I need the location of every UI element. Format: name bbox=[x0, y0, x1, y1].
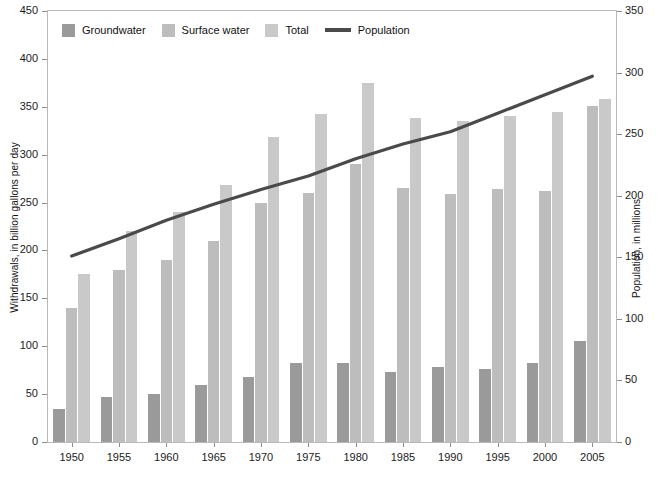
x-axis-tick-mark bbox=[545, 443, 546, 447]
y-axis-right-tick-mark bbox=[617, 134, 622, 135]
y-axis-left-tick-label: 450 bbox=[8, 4, 38, 16]
legend-item-population[interactable]: Population bbox=[325, 24, 410, 36]
y-axis-right-tick-mark bbox=[617, 442, 622, 443]
x-axis-tick-label: 1960 bbox=[144, 451, 188, 463]
x-axis-tick-label: 1980 bbox=[334, 451, 378, 463]
y-axis-right-tick-label: 350 bbox=[625, 4, 655, 16]
y-axis-right-tick-mark bbox=[617, 11, 622, 12]
legend-label: Population bbox=[358, 24, 410, 36]
legend-color-swatch bbox=[162, 24, 175, 37]
legend-item-surface-water[interactable]: Surface water bbox=[162, 24, 250, 37]
y-axis-left-tick-label: 100 bbox=[8, 339, 38, 351]
x-axis-tick-mark bbox=[450, 443, 451, 447]
x-axis-tick-label: 1965 bbox=[192, 451, 236, 463]
x-axis-tick-label: 1995 bbox=[476, 451, 520, 463]
y-axis-left-tick-label: 250 bbox=[8, 196, 38, 208]
x-axis-tick-label: 1970 bbox=[239, 451, 283, 463]
y-axis-right-tick-mark bbox=[617, 196, 622, 197]
x-axis-tick-label: 1990 bbox=[428, 451, 472, 463]
y-axis-right-tick-mark bbox=[617, 319, 622, 320]
y-axis-right-tick-label: 100 bbox=[625, 312, 655, 324]
x-axis-tick-mark bbox=[72, 443, 73, 447]
legend-label: Groundwater bbox=[82, 24, 146, 36]
x-axis-tick-label: 1975 bbox=[286, 451, 330, 463]
legend-item-groundwater[interactable]: Groundwater bbox=[62, 24, 146, 37]
y-axis-right-tick-label: 50 bbox=[625, 373, 655, 385]
x-axis-tick-label: 1955 bbox=[97, 451, 141, 463]
x-axis-tick-mark bbox=[261, 443, 262, 447]
x-axis-tick-label: 2000 bbox=[523, 451, 567, 463]
x-axis-tick-mark bbox=[166, 443, 167, 447]
x-axis-tick-mark bbox=[403, 443, 404, 447]
legend-line-marker bbox=[325, 28, 351, 32]
chart-legend: GroundwaterSurface waterTotalPopulation bbox=[62, 21, 426, 39]
chart-root: Withdrawals, in billion gallons per day … bbox=[0, 0, 671, 494]
y-axis-right-tick-label: 0 bbox=[625, 435, 655, 447]
y-axis-left-tick-label: 200 bbox=[8, 243, 38, 255]
x-axis-tick-label: 1985 bbox=[381, 451, 425, 463]
y-axis-left-tick-label: 400 bbox=[8, 52, 38, 64]
y-axis-right-tick-label: 250 bbox=[625, 127, 655, 139]
legend-color-swatch bbox=[62, 24, 75, 37]
x-axis-tick-label: 2005 bbox=[570, 451, 614, 463]
y-axis-left-tick-label: 300 bbox=[8, 148, 38, 160]
x-axis-tick-mark bbox=[119, 443, 120, 447]
plot-area: GroundwaterSurface waterTotalPopulation bbox=[47, 10, 617, 443]
x-axis-tick-label: 1950 bbox=[50, 451, 94, 463]
y-axis-right-tick-mark bbox=[617, 380, 622, 381]
x-axis-tick-mark bbox=[498, 443, 499, 447]
population-line bbox=[72, 76, 593, 256]
legend-color-swatch bbox=[265, 24, 278, 37]
y-axis-right-tick-mark bbox=[617, 257, 622, 258]
x-axis-tick-mark bbox=[592, 443, 593, 447]
y-axis-right-tick-label: 150 bbox=[625, 250, 655, 262]
y-axis-right-tick-label: 200 bbox=[625, 189, 655, 201]
legend-label: Surface water bbox=[182, 24, 250, 36]
y-axis-right-tick-mark bbox=[617, 73, 622, 74]
population-line-overlay bbox=[48, 11, 616, 442]
x-axis-tick-mark bbox=[308, 443, 309, 447]
y-axis-left-tick-label: 50 bbox=[8, 387, 38, 399]
legend-item-total[interactable]: Total bbox=[265, 24, 308, 37]
x-axis-tick-mark bbox=[356, 443, 357, 447]
y-axis-left-tick-label: 350 bbox=[8, 100, 38, 112]
legend-label: Total bbox=[285, 24, 308, 36]
y-axis-right-tick-label: 300 bbox=[625, 66, 655, 78]
y-axis-left-tick-label: 150 bbox=[8, 291, 38, 303]
y-axis-left-tick-label: 0 bbox=[8, 435, 38, 447]
x-axis-tick-mark bbox=[214, 443, 215, 447]
